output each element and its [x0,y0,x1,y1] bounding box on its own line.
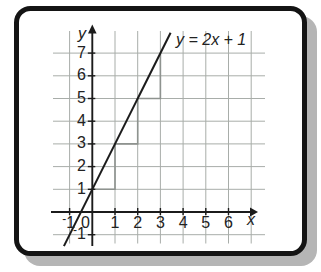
x-tick-label: 3 [156,214,165,231]
x-tick-label: 5 [201,214,210,231]
y-axis-label: y [77,25,87,42]
y-tick-label: 2 [77,157,86,174]
y-tick-label: 4 [77,112,86,129]
equation-label: y = 2x + 1 [175,31,246,48]
y-tick-label: 5 [77,89,86,106]
x-tick-label: 2 [133,214,142,231]
origin-label: 0 [81,214,90,231]
x-tick-label: 6 [224,214,233,231]
y-tick-label: 6 [77,66,86,83]
x-axis-label: x [246,211,256,228]
x-tick-label: 4 [179,214,188,231]
y-tick-label: 1 [77,180,86,197]
graph-card-stage: -1123456-112345670 y = 2x + 1 y x [0,0,321,272]
graph-figure: -1123456-112345670 y = 2x + 1 y x [0,0,321,272]
x-tick-label: 1 [111,214,120,231]
y-tick-label: 3 [77,134,86,151]
y-tick-label: 7 [77,44,86,61]
